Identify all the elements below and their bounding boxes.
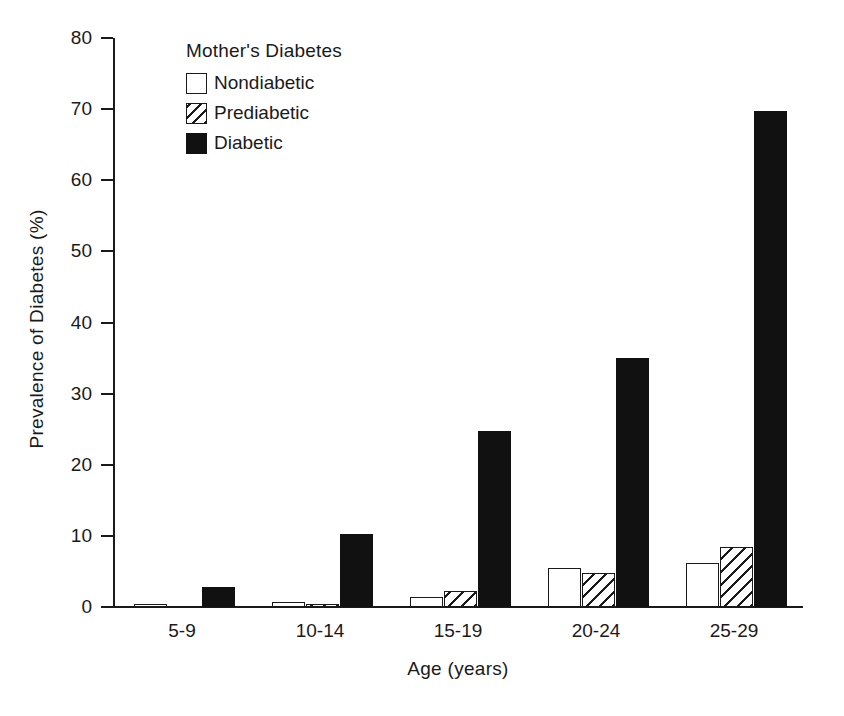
bar-15-19-diabetic [478, 431, 511, 607]
bar-15-19-nondiabetic [410, 597, 443, 607]
legend-entries: NondiabeticPrediabeticDiabetic [186, 72, 342, 154]
legend-swatch-nondiabetic-icon [186, 73, 207, 94]
x-axis-tick-label: 20-24 [526, 620, 666, 642]
legend-title: Mother's Diabetes [186, 40, 342, 62]
bar-5-9-nondiabetic [134, 604, 167, 607]
y-axis-tick [101, 108, 113, 110]
legend-item-label: Diabetic [214, 132, 283, 154]
bar-25-29-diabetic [754, 111, 787, 607]
bar-20-24-prediabetic [582, 573, 615, 607]
x-axis-tick-label: 15-19 [388, 620, 528, 642]
legend-item-prediabetic: Prediabetic [186, 102, 342, 124]
y-axis-tick [101, 250, 113, 252]
y-axis-tick-label: 40 [0, 313, 92, 332]
legend-item-label: Nondiabetic [214, 72, 314, 94]
y-axis-tick [101, 37, 113, 39]
y-axis-tick [101, 535, 113, 537]
y-axis-tick [101, 322, 113, 324]
y-axis-tick-label: 80 [0, 28, 92, 47]
bar-25-29-nondiabetic [686, 563, 719, 607]
y-axis-tick [101, 179, 113, 181]
bar-25-29-prediabetic [720, 547, 753, 607]
bar-chart-figure: Prevalence of Diabetes (%) 0102030405060… [0, 0, 844, 716]
bar-20-24-diabetic [616, 358, 649, 607]
y-axis-tick-label: 70 [0, 99, 92, 118]
y-axis-tick-label: 50 [0, 241, 92, 260]
x-axis-tick-label: 10-14 [250, 620, 390, 642]
legend-item-diabetic: Diabetic [186, 132, 342, 154]
y-axis-tick [101, 464, 113, 466]
y-axis-tick [101, 606, 113, 608]
y-axis-tick [101, 393, 113, 395]
y-axis-tick-label: 0 [0, 597, 92, 616]
y-axis-tick-label: 30 [0, 384, 92, 403]
x-axis-title: Age (years) [113, 658, 803, 680]
y-axis-tick-label: 60 [0, 170, 92, 189]
bar-10-14-prediabetic [306, 604, 339, 607]
y-axis-tick-label: 20 [0, 455, 92, 474]
bar-15-19-prediabetic [444, 591, 477, 607]
bar-10-14-nondiabetic [272, 602, 305, 607]
legend-item-label: Prediabetic [214, 102, 309, 124]
legend: Mother's Diabetes NondiabeticPrediabetic… [186, 40, 342, 162]
legend-swatch-diabetic-icon [186, 133, 207, 154]
bar-5-9-diabetic [202, 587, 235, 607]
legend-swatch-prediabetic-icon [186, 103, 207, 124]
legend-item-nondiabetic: Nondiabetic [186, 72, 342, 94]
x-axis-tick-label: 5-9 [112, 620, 252, 642]
x-axis-tick-label: 25-29 [664, 620, 804, 642]
y-axis-line [113, 38, 115, 608]
y-axis-tick-label: 10 [0, 526, 92, 545]
bar-20-24-nondiabetic [548, 568, 581, 607]
bar-10-14-diabetic [340, 534, 373, 607]
